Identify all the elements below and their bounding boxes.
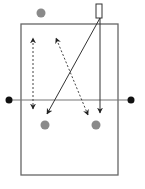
bottom-right-player-icon [92,121,101,130]
right-post-icon [128,97,135,104]
bottom-left-player-icon [41,121,50,130]
net [6,97,135,104]
cone-marker [96,4,102,18]
left-post-icon [6,97,13,104]
top-player-icon [37,9,46,18]
drill-diagram [0,0,145,189]
cone-icon [96,4,102,18]
dashed-diagonal-arrow [56,38,88,115]
